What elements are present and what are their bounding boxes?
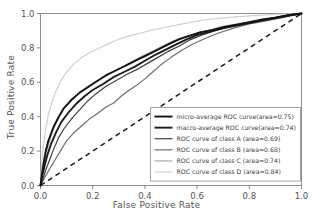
x-tick-label: 0.2 [86,191,100,201]
legend-label: macro-average ROC curve(area=0.74) [177,124,296,132]
legend-label: ROC curve of class A (area=0.69) [177,135,281,142]
legend[interactable]: micro-average ROC curve(area=0.75)macro-… [151,108,301,182]
x-tick-label: 0.4 [138,191,152,201]
legend-label: ROC curve of class D (area=0.84) [177,168,281,175]
y-tick-label: 0.0 [21,181,35,191]
y-tick-label: 1.0 [21,9,35,19]
x-axis-label: False Positive Rate [0,200,313,210]
roc-curve-figure: 0.00.20.40.60.81.0 0.00.20.40.60.81.0 mi… [0,0,313,220]
legend-label: ROC curve of class B (area=0.68) [177,146,281,153]
y-tick-label: 0.2 [21,146,35,156]
plot-canvas: 0.00.20.40.60.81.0 0.00.20.40.60.81.0 mi… [0,0,313,220]
y-tick-label: 0.6 [21,77,35,87]
x-tick-label: 0.6 [190,191,204,201]
x-tick-label: 1.0 [295,191,309,201]
y-tick-label: 0.4 [21,112,35,122]
y-tick-label: 0.8 [21,43,35,53]
x-tick-label: 0.8 [243,191,257,201]
x-tick-label: 0.0 [34,191,48,201]
legend-label: micro-average ROC curve(area=0.75) [177,113,294,121]
legend-label: ROC curve of class C (area=0.74) [177,157,281,164]
legend-item[interactable]: macro-average ROC curve(area=0.74) [155,124,296,132]
y-axis-label: True Positive Rate [6,42,16,152]
